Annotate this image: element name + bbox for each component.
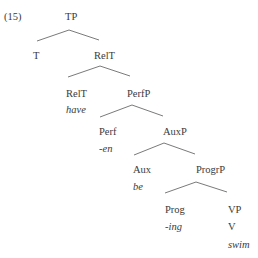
- node-aux: Aux: [133, 164, 151, 176]
- node-vp: VP: [228, 204, 241, 216]
- node-perf: Perf: [99, 126, 117, 138]
- word-en: -en: [99, 143, 112, 155]
- example-number: (15): [4, 11, 22, 23]
- node-t: T: [33, 50, 39, 62]
- node-progrp: ProgrP: [196, 164, 225, 176]
- word-ing: -ing: [165, 221, 182, 233]
- word-swim: swim: [228, 239, 250, 251]
- node-auxp: AuxP: [163, 126, 187, 138]
- node-prog: Prog: [165, 204, 185, 216]
- word-be: be: [133, 181, 143, 193]
- node-relt: RelT: [94, 50, 115, 62]
- node-tp: TP: [65, 11, 77, 23]
- node-v: V: [228, 221, 236, 233]
- word-have: have: [66, 104, 86, 116]
- node-relt-head: RelT: [66, 88, 87, 100]
- node-perfp: PerfP: [127, 88, 150, 100]
- tree-branches: [0, 0, 258, 258]
